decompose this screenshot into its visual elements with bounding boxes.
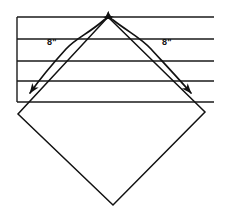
figure-background: [0, 0, 226, 215]
right-measure-label: 8": [162, 37, 172, 47]
geometry-figure: 8" 8": [0, 0, 226, 215]
left-measure-label: 8": [47, 37, 57, 47]
figure-canvas: 8" 8": [0, 0, 226, 215]
